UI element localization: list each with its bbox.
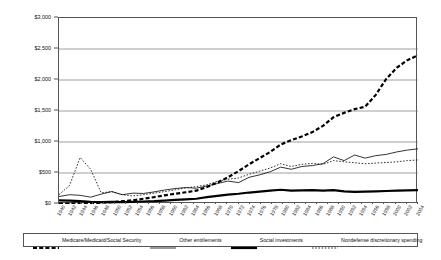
y-axis-tick-labels: $0$500$1,000$1,500$2,000$2,500$3,000 <box>0 17 55 203</box>
x-axis-tick-labels: 1940194219441946194819501952195419561958… <box>58 204 417 232</box>
x-axis-tick-mark <box>383 202 384 204</box>
legend-label: Other entitlements <box>179 237 221 243</box>
x-axis-tick-label: 1990 <box>335 204 346 217</box>
series-line <box>59 158 418 196</box>
x-axis-tick-label: 1962 <box>178 204 189 217</box>
x-axis-tick-mark <box>417 202 418 204</box>
x-axis-tick-label: 1982 <box>291 204 302 217</box>
x-axis-tick-mark <box>249 202 250 204</box>
x-axis-tick-mark <box>294 202 295 204</box>
x-axis-tick-mark <box>215 202 216 204</box>
x-axis-tick-label: 1942 <box>66 204 77 217</box>
x-axis-tick-mark <box>148 202 149 204</box>
x-axis-tick-label: 1966 <box>201 204 212 217</box>
x-axis-tick-label: 1988 <box>324 204 335 217</box>
y-axis-tick-label: $2,000 <box>35 76 52 82</box>
thin-solid-swatch <box>150 237 176 243</box>
x-axis-tick-label: 1998 <box>380 204 391 217</box>
x-axis-tick-mark <box>114 202 115 204</box>
x-axis-tick-mark <box>395 202 396 204</box>
legend-item[interactable]: Social investments <box>231 237 303 243</box>
y-axis-tick-label: $0 <box>45 200 51 206</box>
x-axis-tick-label: 1970 <box>223 204 234 217</box>
x-axis-tick-label: 1948 <box>100 204 111 217</box>
x-axis-tick-label: 1968 <box>212 204 223 217</box>
x-axis-tick-mark <box>361 202 362 204</box>
x-axis-tick-mark <box>159 202 160 204</box>
x-axis-tick-mark <box>137 202 138 204</box>
x-axis-tick-label: 1980 <box>279 204 290 217</box>
x-axis-tick-mark <box>305 202 306 204</box>
x-axis-tick-label: 1976 <box>257 204 268 217</box>
x-axis-tick-label: 1964 <box>190 204 201 217</box>
x-axis-tick-mark <box>103 202 104 204</box>
x-axis-tick-label: 1958 <box>156 204 167 217</box>
x-axis-tick-label: 1994 <box>358 204 369 217</box>
x-axis-tick-label: 1986 <box>313 204 324 217</box>
chart-container: Constant 1992 dollars (in billions) $0$5… <box>0 0 441 260</box>
x-axis-tick-label: 2004 <box>414 204 425 217</box>
x-axis-tick-label: 1972 <box>234 204 245 217</box>
x-axis-tick-label: 1940 <box>55 204 66 217</box>
x-axis-tick-mark <box>181 202 182 204</box>
x-axis-tick-mark <box>204 202 205 204</box>
x-axis-tick-mark <box>271 202 272 204</box>
y-axis-tick-label: $500 <box>39 169 51 175</box>
x-axis-tick-label: 1978 <box>268 204 279 217</box>
legend-item[interactable]: Medicare/Medicaid/Social Security <box>33 237 141 243</box>
legend-label: Medicare/Medicaid/Social Security <box>62 237 141 243</box>
legend-label: Nondefense discretionary spending <box>341 237 422 243</box>
thick-solid-swatch <box>231 237 257 243</box>
x-axis-tick-mark <box>226 202 227 204</box>
x-axis-tick-mark <box>238 202 239 204</box>
x-axis-tick-label: 2002 <box>403 204 414 217</box>
x-axis-tick-mark <box>327 202 328 204</box>
x-axis-tick-label: 1974 <box>246 204 257 217</box>
x-axis-tick-label: 1944 <box>77 204 88 217</box>
y-axis-tick-label: $2,500 <box>35 45 52 51</box>
x-axis-tick-label: 1950 <box>111 204 122 217</box>
x-axis-tick-mark <box>350 202 351 204</box>
plot-area <box>58 17 417 203</box>
x-axis-tick-label: 1984 <box>302 204 313 217</box>
legend-item[interactable]: Nondefense discretionary spending <box>312 237 422 243</box>
x-axis-tick-mark <box>193 202 194 204</box>
legend-label: Social investments <box>260 237 303 243</box>
x-axis-tick-mark <box>260 202 261 204</box>
x-axis-tick-label: 1946 <box>89 204 100 217</box>
x-axis-tick-mark <box>338 202 339 204</box>
x-axis-tick-mark <box>406 202 407 204</box>
dotted-swatch <box>312 237 338 243</box>
series-line <box>59 149 418 197</box>
x-axis-tick-mark <box>69 202 70 204</box>
x-axis-tick-mark <box>316 202 317 204</box>
x-axis-tick-label: 1996 <box>369 204 380 217</box>
x-axis-tick-mark <box>92 202 93 204</box>
thick-dashed-swatch <box>33 237 59 243</box>
x-axis-tick-mark <box>170 202 171 204</box>
x-axis-tick-mark <box>58 202 59 204</box>
x-axis-tick-mark <box>372 202 373 204</box>
y-axis-tick-label: $1,000 <box>35 138 52 144</box>
x-axis-tick-label: 1956 <box>145 204 156 217</box>
y-axis-tick-label: $1,500 <box>35 107 52 113</box>
x-axis-tick-label: 2000 <box>392 204 403 217</box>
x-axis-tick-label: 1952 <box>122 204 133 217</box>
x-axis-tick-label: 1960 <box>167 204 178 217</box>
x-axis-tick-mark <box>125 202 126 204</box>
x-axis-tick-label: 1954 <box>133 204 144 217</box>
data-series-layer <box>59 18 418 204</box>
x-axis-tick-label: 1992 <box>347 204 358 217</box>
chart-legend: Medicare/Medicaid/Social SecurityOther e… <box>23 233 418 247</box>
y-axis-tick-label: $3,000 <box>35 14 52 20</box>
legend-item[interactable]: Other entitlements <box>150 237 221 243</box>
x-axis-tick-mark <box>80 202 81 204</box>
x-axis-tick-mark <box>282 202 283 204</box>
series-line <box>59 55 418 203</box>
